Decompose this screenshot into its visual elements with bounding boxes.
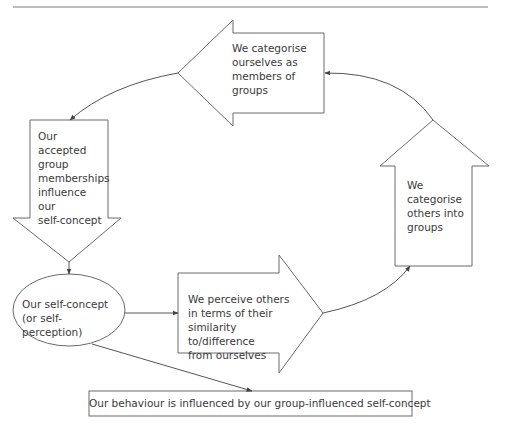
edge-categorise-self-to-accepted-memberships — [70, 73, 178, 120]
node-categorise-self-label: We categorise ourselves as members of gr… — [232, 41, 324, 97]
node-accepted-memberships-label: Our accepted group memberships influence… — [38, 129, 110, 227]
node-self-concept-label: Our self-concept (or self-perception) — [22, 297, 122, 339]
node-behaviour-label: Our behaviour is influenced by our group… — [89, 391, 412, 416]
edge-perceive-others-to-categorise-others — [323, 266, 410, 313]
node-categorise-others-label: We categorise others into groups — [407, 178, 471, 234]
edge-categorise-others-to-categorise-self — [325, 73, 433, 120]
node-perceive-others-label: We perceive others in terms of their sim… — [188, 292, 298, 362]
